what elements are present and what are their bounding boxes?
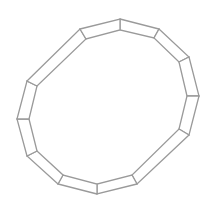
ring-segments	[17, 19, 199, 194]
ring-segment	[17, 119, 37, 156]
ring-segment	[179, 57, 199, 96]
ring-segment	[27, 29, 86, 86]
ring-segment	[97, 175, 137, 194]
ring-segment	[179, 96, 199, 135]
ring-segment	[154, 29, 189, 62]
ring-segment	[80, 19, 120, 39]
segmented-ring-diagram	[0, 0, 216, 216]
ring-segment	[58, 175, 97, 194]
ring-segment	[132, 129, 189, 184]
ring-segment	[120, 19, 159, 38]
ring-segment	[17, 81, 37, 119]
ring-segment	[27, 151, 63, 184]
